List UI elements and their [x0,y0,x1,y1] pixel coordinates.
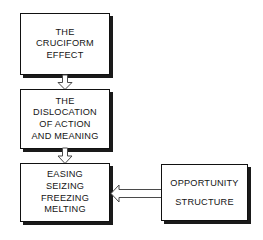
node-easing-line-3: FREEZING [41,193,89,205]
arrow-dislocation-to-easing-icon [53,148,77,164]
node-opportunity-line-1: OPPORTUNITY [170,174,238,193]
node-easing-line-1: EASING [47,169,83,181]
node-dislocation-of-action-and-meaning: THE DISLOCATION OF ACTION AND MEANING [20,89,110,149]
node-cruciform-line-1: THE [56,27,75,39]
node-dislocation-line-2: DISLOCATION [33,107,97,119]
arrow-opportunity-to-easing-icon [110,184,162,203]
node-easing-line-2: SEIZING [46,181,84,193]
node-opportunity-structure: OPPORTUNITY STRUCTURE [161,164,248,221]
node-opportunity-line-2: STRUCTURE [175,193,233,212]
node-cruciform-effect: THE CRUCIFORM EFFECT [20,13,110,75]
node-easing-line-4: MELTING [44,204,86,216]
node-cruciform-line-2: CRUCIFORM [36,38,94,50]
node-dislocation-line-1: THE [56,96,75,108]
arrow-cruciform-to-dislocation-icon [53,75,77,90]
node-easing-seizing-freezing-melting: EASING SEIZING FREEZING MELTING [20,163,110,222]
node-dislocation-line-4: AND MEANING [31,131,98,143]
flowchart-diagram: THE CRUCIFORM EFFECT THE DISLOCATION OF … [0,0,263,240]
node-dislocation-line-3: OF ACTION [39,119,90,131]
node-cruciform-line-3: EFFECT [47,50,84,62]
